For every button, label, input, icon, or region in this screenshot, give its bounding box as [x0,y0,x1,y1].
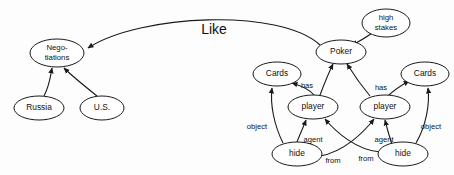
node-cards-right[interactable]: Cards [401,62,449,86]
node-cards-left[interactable]: Cards [253,62,301,86]
edge-layer: Negotiations (long arc across the top) -… [44,20,429,156]
node-cards-right-label: Cards [414,68,436,78]
edge-label-agent-left: agent [303,135,323,144]
node-russia[interactable]: Russia [14,96,64,120]
edge-has-playerright-cardsright [388,81,409,96]
node-poker-label: Poker [330,46,352,56]
edge-us-negotiations [64,68,97,96]
node-high-stakes[interactable]: high stakes [362,9,410,37]
node-player-left[interactable]: player [288,95,338,119]
node-us[interactable]: U.S. [80,96,124,120]
node-player-right-label: player [374,101,397,111]
node-player-right[interactable]: player [360,95,410,119]
edge-label-object-left: object [247,122,268,131]
node-us-label: U.S. [94,102,110,112]
edge-label-has-left: has [301,81,313,90]
node-hide-left-label: hide [289,148,305,158]
diagram-canvas: Negotiations (long arc across the top) -… [0,0,454,175]
edge-playerleft-poker [320,64,333,95]
edge-object-hideright-cardsright [416,88,429,143]
edge-russia-negotiations [44,68,52,96]
node-negotiations-line2: tiations [45,53,70,62]
edge-label-agent-right: agent [374,135,394,144]
edge-playerright-poker [347,64,370,96]
node-hide-left[interactable]: hide [272,142,322,166]
node-high-stakes-line2: stakes [375,23,398,32]
edge-label-like: Like [201,21,227,37]
edge-from-hideright-playerleft [325,119,380,152]
edge-from-hideleft-playerright [320,119,374,156]
node-hide-right[interactable]: hide [378,142,428,166]
edge-label-from-left: from [325,156,340,165]
edge-label-from-right: from [358,154,373,163]
edge-object-hideleft-cardsleft [271,88,283,143]
semantic-network-graph: Negotiations (long arc across the top) -… [0,0,454,175]
node-hide-right-label: hide [395,148,411,158]
edge-label-has-right: has [375,83,387,92]
node-player-left-label: player [302,101,325,111]
node-high-stakes-line1: high [379,13,394,22]
node-cards-left-label: Cards [266,68,288,78]
node-russia-label: Russia [26,102,52,112]
node-negotiations-line1: Nego- [46,43,68,52]
edge-label-object-right: object [421,122,442,131]
node-poker[interactable]: Poker [316,40,366,64]
node-negotiations[interactable]: Nego- tiations [30,39,84,67]
